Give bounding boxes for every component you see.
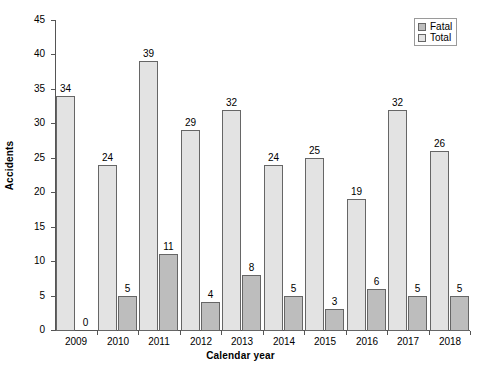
y-axis-tick-mark — [51, 54, 55, 55]
bar-fatal — [118, 296, 137, 331]
bar-value-label-total: 24 — [94, 153, 121, 163]
bar-value-label-fatal: 0 — [72, 318, 99, 328]
x-axis-tick-label: 2015 — [304, 336, 346, 347]
y-axis-tick-label: 5 — [23, 291, 45, 301]
bar-fatal — [367, 289, 386, 331]
bar-total — [98, 165, 117, 331]
x-axis-tick-label: 2009 — [55, 336, 97, 347]
x-axis-tick-label: 2016 — [346, 336, 388, 347]
legend-swatch-icon — [418, 23, 426, 31]
bar-chart: Accidents Calendar year 0510152025303540… — [0, 0, 481, 372]
legend-item: Fatal — [418, 21, 452, 32]
bar-value-label-fatal: 5 — [114, 284, 141, 294]
y-axis-tick-mark — [51, 227, 55, 228]
bar-fatal — [450, 296, 469, 331]
x-axis-tick-label: 2011 — [138, 336, 180, 347]
bar-total — [347, 199, 366, 331]
y-axis-tick-mark — [51, 296, 55, 297]
x-axis-tick-mark — [221, 331, 222, 335]
y-axis-tick-label: 15 — [23, 222, 45, 232]
y-axis-title: Accidents — [2, 0, 18, 330]
legend-item-label: Total — [430, 33, 451, 43]
bar-total — [222, 110, 241, 331]
bar-value-label-total: 24 — [260, 153, 287, 163]
x-axis-tick-label: 2018 — [429, 336, 471, 347]
y-axis-tick-label: 20 — [23, 187, 45, 197]
bar-value-label-total: 39 — [135, 49, 162, 59]
legend-item-label: Fatal — [430, 22, 452, 32]
y-axis-tick-mark — [51, 192, 55, 193]
bar-value-label-total: 32 — [384, 98, 411, 108]
y-axis-tick-label: 40 — [23, 49, 45, 59]
x-axis-tick-label: 2012 — [180, 336, 222, 347]
bar-total — [264, 165, 283, 331]
bar-fatal — [159, 254, 178, 331]
y-axis-tick-mark — [51, 20, 55, 21]
legend-swatch-icon — [418, 34, 426, 42]
y-axis-tick-mark — [51, 158, 55, 159]
bar-value-label-fatal: 5 — [280, 284, 307, 294]
bar-value-label-total: 19 — [343, 187, 370, 197]
x-axis-tick-mark — [387, 331, 388, 335]
cropped-caption-artifact — [0, 364, 481, 372]
x-axis-tick-label: 2014 — [263, 336, 305, 347]
x-axis-tick-label: 2010 — [97, 336, 139, 347]
x-axis-tick-label: 2013 — [221, 336, 263, 347]
x-axis-title: Calendar year — [0, 350, 481, 361]
bar-fatal — [408, 296, 427, 331]
bar-value-label-total: 34 — [52, 84, 79, 94]
bar-fatal — [242, 275, 261, 331]
y-axis-tick-mark — [51, 261, 55, 262]
x-axis-tick-mark — [138, 331, 139, 335]
bar-total — [181, 130, 200, 331]
y-axis-tick-label: 30 — [23, 118, 45, 128]
bar-fatal — [201, 302, 220, 331]
y-axis-title-text: Accidents — [5, 140, 16, 190]
x-axis-tick-mark — [346, 331, 347, 335]
bar-total — [139, 61, 158, 331]
y-axis-tick-label: 35 — [23, 84, 45, 94]
x-axis-tick-label: 2017 — [387, 336, 429, 347]
bar-value-label-fatal: 3 — [321, 297, 348, 307]
x-axis-tick-mark — [470, 331, 471, 335]
bar-value-label-total: 25 — [301, 146, 328, 156]
bar-total — [388, 110, 407, 331]
bar-fatal — [284, 296, 303, 331]
bar-value-label-total: 29 — [177, 118, 204, 128]
chart-legend: FatalTotal — [414, 18, 457, 46]
legend-item: Total — [418, 32, 452, 43]
y-axis-tick-label: 25 — [23, 153, 45, 163]
bar-value-label-fatal: 5 — [446, 284, 473, 294]
bar-value-label-fatal: 5 — [404, 284, 431, 294]
x-axis-tick-mark — [263, 331, 264, 335]
x-axis-tick-mark — [97, 331, 98, 335]
x-axis-tick-mark — [304, 331, 305, 335]
bar-total — [56, 96, 75, 331]
bar-fatal — [325, 309, 344, 331]
bar-value-label-total: 26 — [426, 139, 453, 149]
bar-total — [430, 151, 449, 331]
bar-value-label-fatal: 4 — [197, 290, 224, 300]
y-axis-tick-label: 10 — [23, 256, 45, 266]
bar-value-label-total: 32 — [218, 98, 245, 108]
x-axis-tick-mark — [180, 331, 181, 335]
bar-value-label-fatal: 11 — [155, 242, 182, 252]
bar-value-label-fatal: 8 — [238, 263, 265, 273]
y-axis-tick-label: 45 — [23, 15, 45, 25]
y-axis-tick-label: 0 — [23, 325, 45, 335]
y-axis-tick-mark — [51, 330, 55, 331]
y-axis-tick-mark — [51, 123, 55, 124]
x-axis-tick-mark — [429, 331, 430, 335]
bar-value-label-fatal: 6 — [363, 277, 390, 287]
